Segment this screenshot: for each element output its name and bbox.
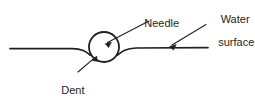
dent-label: Dent [49,73,84,95]
needle-label: Needle [132,6,179,41]
water-surface-right-line [118,48,209,56]
needle-water-surface-figure: Needle Water surface Dent [0,0,255,95]
water-surface-label-line1: Water [221,13,250,25]
needle-label-text: Needle [144,17,179,29]
needle-circle [89,32,119,62]
water-surface-label: Water surface [206,2,252,60]
needle-arrowhead [105,42,111,48]
dent-leader-line [78,56,97,72]
water-surface-label-line2: surface [218,36,254,48]
dent-label-text: Dent [61,84,84,96]
water-surface-left-line [10,49,90,56]
